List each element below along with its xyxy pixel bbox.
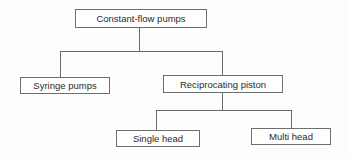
connector-to-multi-head: [291, 110, 292, 128]
connector-reciprocating-stem: [222, 92, 223, 110]
pump-classification-diagram: Constant-flow pumps Syringe pumps Recipr…: [0, 0, 349, 158]
connector-root-stem: [139, 28, 140, 51]
connector-level1-bar: [60, 51, 223, 52]
node-multi-head: Multi head: [251, 128, 331, 145]
node-syringe-pumps: Syringe pumps: [20, 77, 110, 94]
connector-to-single-head: [156, 110, 157, 130]
node-single-head: Single head: [116, 130, 200, 147]
connector-level2-bar: [156, 110, 292, 111]
node-constant-flow-pumps: Constant-flow pumps: [75, 9, 207, 28]
connector-to-reciprocating: [222, 51, 223, 75]
connector-to-syringe: [60, 51, 61, 77]
node-reciprocating-piston: Reciprocating piston: [163, 75, 283, 93]
